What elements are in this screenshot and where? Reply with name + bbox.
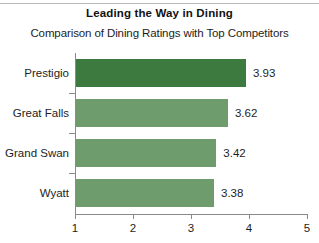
x-axis-tick-label: 4 (237, 222, 261, 234)
plot-area: Prestigio3.93Great Falls3.62Grand Swan3.… (0, 48, 319, 243)
bar-row: Great Falls3.62 (0, 93, 319, 133)
x-axis-tick-label: 2 (121, 222, 145, 234)
x-axis-tick (307, 214, 308, 219)
y-axis-tick (69, 93, 75, 94)
category-label: Wyatt (40, 187, 69, 199)
x-axis-tick-label: 5 (295, 222, 319, 234)
bar-row: Grand Swan3.42 (0, 133, 319, 173)
bar-row: Prestigio3.93 (0, 53, 319, 93)
y-axis-tick (69, 173, 75, 174)
bar-row: Wyatt3.38 (0, 173, 319, 213)
x-axis-tick (75, 214, 76, 219)
x-axis-tick (133, 214, 134, 219)
bar (76, 99, 228, 127)
bar-value-label: 3.38 (221, 187, 243, 199)
chart-subtitle: Comparison of Dining Ratings with Top Co… (0, 27, 319, 39)
bar (76, 139, 216, 167)
y-axis-tick (69, 133, 75, 134)
category-label: Great Falls (13, 107, 69, 119)
bar (76, 179, 214, 207)
category-label: Grand Swan (5, 147, 69, 159)
bar-chart-figure: Leading the Way in Dining Comparison of … (0, 0, 319, 243)
chart-title: Leading the Way in Dining (0, 7, 319, 19)
x-axis-tick (191, 214, 192, 219)
bar (76, 59, 246, 87)
bar-value-label: 3.42 (223, 147, 245, 159)
category-label: Prestigio (24, 67, 69, 79)
x-axis-tick (249, 214, 250, 219)
x-axis-tick-label: 1 (63, 222, 87, 234)
bar-value-label: 3.93 (253, 67, 275, 79)
bar-value-label: 3.62 (235, 107, 257, 119)
x-axis-tick-label: 3 (179, 222, 203, 234)
page-rule-divider (0, 3, 319, 4)
